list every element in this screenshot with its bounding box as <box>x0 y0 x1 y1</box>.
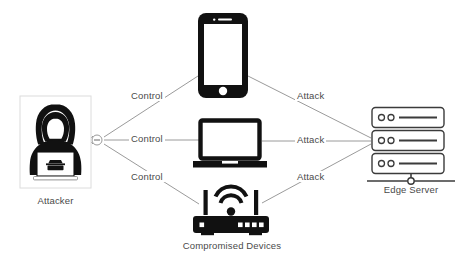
edge-label-attack-laptop: Attack <box>295 134 326 145</box>
edge-label-control-router: Control <box>129 171 165 182</box>
edge-label-attack-router: Attack <box>295 171 326 182</box>
node-label-attacker: Attacker <box>20 195 91 206</box>
edge-line-control-phone <box>104 76 198 137</box>
edge-label-attack-phone: Attack <box>295 90 326 101</box>
server-rack-icon <box>367 108 455 185</box>
diagram-canvas <box>0 0 463 270</box>
edge-label-control-phone: Control <box>129 90 165 101</box>
node-label-compromised-devices: Compromised Devices <box>172 240 292 251</box>
node-label-edge-server: Edge Server <box>371 184 451 195</box>
attacker-icon <box>20 96 91 188</box>
wifi-router-icon <box>193 186 269 235</box>
edge-line-attack-phone <box>248 76 371 138</box>
edge-label-control-laptop: Control <box>129 133 165 144</box>
smartphone-icon <box>198 13 248 98</box>
laptop-icon <box>193 121 267 168</box>
